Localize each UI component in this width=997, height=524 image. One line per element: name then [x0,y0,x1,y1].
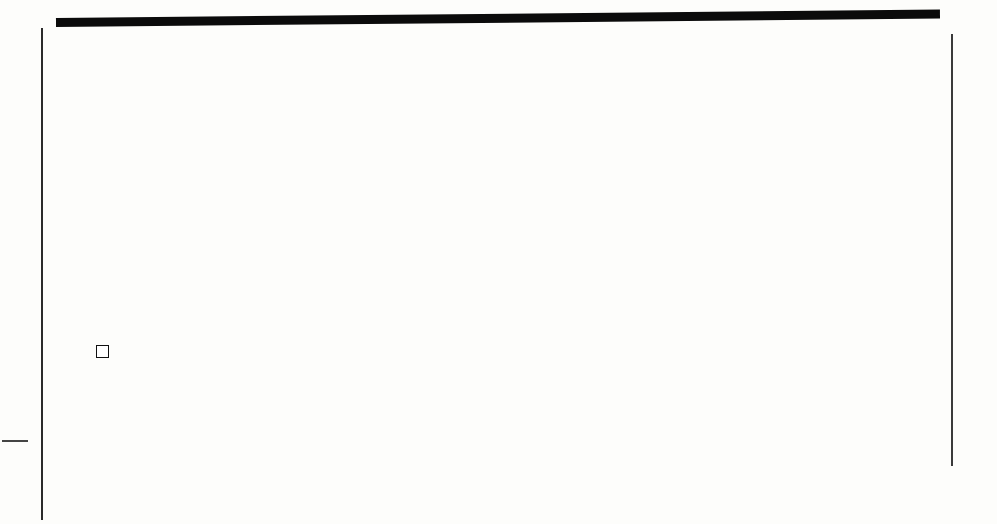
recession-swatch-icon [96,345,109,358]
chart-page [0,0,997,524]
left-margin-dash [2,440,28,442]
legend-recessions-entry [96,345,115,358]
right-vertical-rule [951,34,953,466]
chart-legend [96,342,115,358]
top-rule-decoration [56,10,940,27]
chart-plot-area [96,120,936,470]
left-vertical-rule [41,28,43,520]
sentiment-line-series [96,120,936,470]
